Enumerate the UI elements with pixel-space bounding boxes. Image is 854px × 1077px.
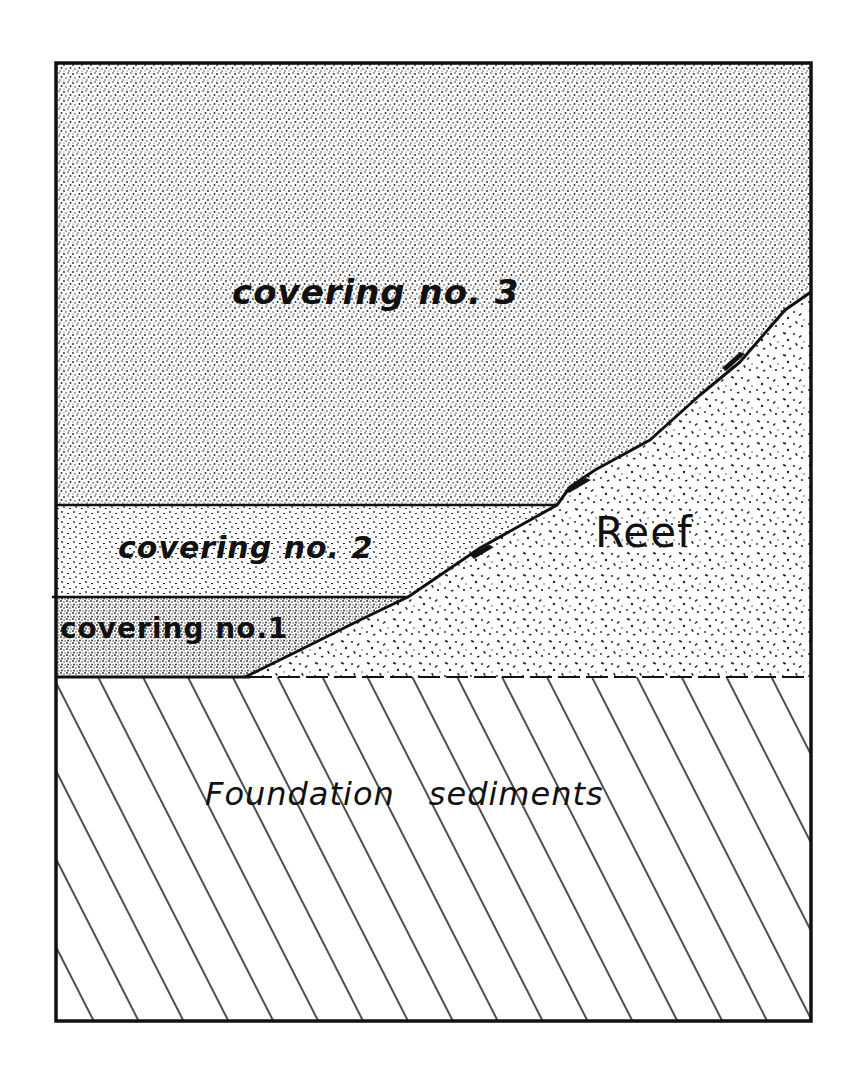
label-reef: Reef	[595, 508, 693, 557]
label-covering-1: covering no.1	[60, 612, 289, 645]
label-foundation-word: Foundation	[205, 775, 395, 813]
label-sediments-word: sediments	[429, 775, 604, 813]
label-foundation-sediments: Foundationsediments	[205, 775, 604, 813]
label-covering-2: covering no. 2	[118, 530, 373, 565]
label-covering-3: covering no. 3	[232, 272, 520, 312]
layer-foundation-sediments	[56, 677, 811, 1021]
